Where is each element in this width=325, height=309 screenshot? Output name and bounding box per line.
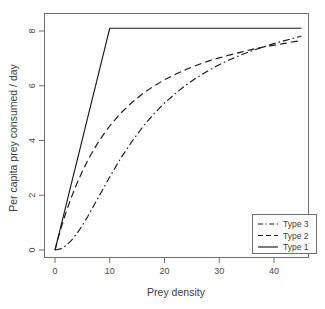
y-tick-label: 6 bbox=[27, 83, 37, 88]
legend-label: Type 1 bbox=[283, 242, 309, 252]
chart-canvas: 010203040 02468 Prey density Per capita … bbox=[0, 0, 325, 309]
y-tick-label: 2 bbox=[27, 193, 37, 198]
functional-response-chart: 010203040 02468 Prey density Per capita … bbox=[0, 0, 325, 309]
y-tick-label: 4 bbox=[27, 138, 37, 143]
y-axis-ticks: 02468 bbox=[27, 28, 45, 252]
x-axis-ticks: 010203040 bbox=[52, 258, 279, 277]
chart-legend: Type 3Type 2Type 1 bbox=[253, 215, 317, 254]
y-axis-title: Per capita prey consumed / day bbox=[7, 63, 19, 211]
y-tick-label: 0 bbox=[27, 247, 37, 252]
x-tick-label: 20 bbox=[159, 266, 169, 276]
x-tick-label: 30 bbox=[214, 266, 224, 276]
x-tick-label: 10 bbox=[105, 266, 115, 276]
x-tick-label: 40 bbox=[269, 266, 279, 276]
x-tick-label: 0 bbox=[52, 266, 57, 276]
y-tick-label: 8 bbox=[27, 28, 37, 33]
legend-label: Type 3 bbox=[283, 219, 309, 229]
x-axis-title: Prey density bbox=[147, 286, 206, 298]
legend-label: Type 2 bbox=[283, 231, 309, 241]
